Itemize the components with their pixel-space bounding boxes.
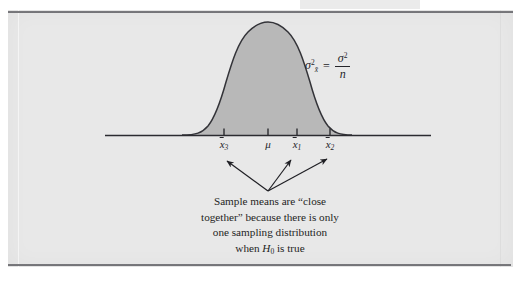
formula-equals: = [322, 59, 331, 74]
caption-line-3: one sampling distribution [170, 225, 370, 241]
formula-denominator: n [337, 67, 349, 81]
arrow-to-xbar3 [227, 161, 268, 191]
arrow-to-xbar1 [268, 160, 291, 191]
figure-caption: Sample means are “close together” becaus… [170, 194, 370, 259]
caption-line-2: together” because there is only [170, 210, 370, 226]
tick-label-xbar1: x1 [293, 138, 302, 152]
arrow-to-xbar2 [268, 159, 327, 191]
tick-label-xbar3: x3 [220, 138, 229, 152]
tick-label-mu: μ [265, 138, 271, 150]
caption-line-1: Sample means are “close [170, 194, 370, 210]
variance-formula: σ2x̄ = σ2 n [305, 52, 350, 80]
caption-line-4: when H0 is true [170, 241, 370, 260]
formula-fraction: σ2 n [335, 52, 351, 80]
tick-label-xbar2: x2 [326, 138, 335, 152]
formula-lhs: σ2x̄ [305, 58, 318, 73]
figure-page: x3 μ x1 x2 σ2x̄ = σ2 n Sample means are … [0, 0, 530, 284]
formula-numerator: σ2 [335, 52, 351, 66]
